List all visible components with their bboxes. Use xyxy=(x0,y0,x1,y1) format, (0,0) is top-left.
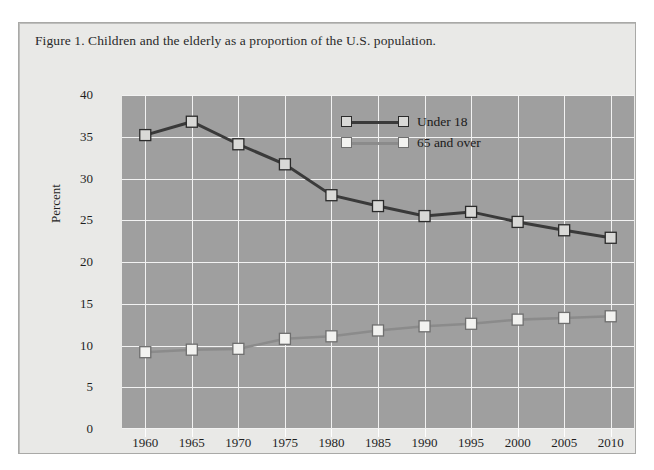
y-tick-label: 35 xyxy=(53,129,93,145)
x-tick-mark xyxy=(192,95,193,437)
cut-off-header-text xyxy=(0,0,654,4)
x-tick-mark xyxy=(331,429,332,437)
legend-swatch-65-and-over xyxy=(341,136,409,150)
legend-marker-left-under-18 xyxy=(341,116,352,127)
x-tick-mark xyxy=(471,95,472,437)
x-tick-mark xyxy=(611,429,612,437)
legend-marker-right-under-18 xyxy=(398,116,409,127)
y-tick-label: 15 xyxy=(53,296,93,312)
y-tick-label: 5 xyxy=(53,379,93,395)
x-tick-mark xyxy=(145,95,146,437)
x-tick-mark xyxy=(518,429,519,437)
legend-item-65-and-over: 65 and over xyxy=(341,132,481,153)
x-tick-mark xyxy=(564,429,565,437)
x-tick-mark xyxy=(471,429,472,437)
legend-marker-right-65-and-over xyxy=(398,137,409,148)
x-tick-mark xyxy=(238,95,239,437)
x-tick-mark xyxy=(564,95,565,437)
y-tick-label: 10 xyxy=(53,338,93,354)
legend-line-under-18 xyxy=(347,121,403,124)
x-tick-label: 2010 xyxy=(581,435,641,451)
legend-item-under-18: Under 18 xyxy=(341,111,481,132)
legend-swatch-under-18 xyxy=(341,115,409,129)
y-tick-label: 25 xyxy=(53,212,93,228)
x-tick-mark xyxy=(331,95,332,437)
figure-caption: Figure 1. Children and the elderly as a … xyxy=(35,33,436,49)
x-tick-mark xyxy=(192,429,193,437)
chart-legend: Under 18 65 and over xyxy=(341,111,481,153)
x-tick-mark xyxy=(285,429,286,437)
figure-frame: Figure 1. Children and the elderly as a … xyxy=(18,22,636,454)
legend-marker-left-65-and-over xyxy=(341,137,352,148)
x-tick-mark xyxy=(378,429,379,437)
x-tick-mark xyxy=(518,95,519,437)
y-tick-label: 0 xyxy=(53,421,93,437)
x-tick-mark xyxy=(425,95,426,437)
y-tick-label: 40 xyxy=(53,87,93,103)
x-tick-mark xyxy=(238,429,239,437)
x-tick-mark xyxy=(611,95,612,437)
y-tick-label: 30 xyxy=(53,171,93,187)
legend-line-65-and-over xyxy=(347,142,403,145)
chart-area: Percent Under 18 xyxy=(104,73,617,429)
x-tick-mark xyxy=(285,95,286,437)
x-tick-mark xyxy=(378,95,379,437)
y-tick-label: 20 xyxy=(53,254,93,270)
x-tick-mark xyxy=(425,429,426,437)
x-tick-mark xyxy=(145,429,146,437)
